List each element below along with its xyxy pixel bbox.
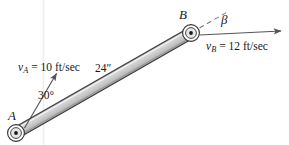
velocity-a-label: vA = 10 ft/sec [18, 62, 80, 76]
velocity-a-equals: = [28, 61, 40, 73]
angle-beta-label: β [221, 13, 227, 26]
velocity-b-equals: = [216, 40, 228, 52]
point-label-b: B [179, 8, 187, 21]
bar-length-label: 24″ [95, 63, 111, 75]
pin-joint-a [8, 125, 25, 142]
velocity-a-value: 10 ft/sec [41, 61, 80, 73]
pin-joint-b [183, 25, 200, 42]
point-label-a: A [8, 109, 16, 122]
kinematics-figure: A B vA = 10 ft/sec vB = 12 ft/sec 24″ 30… [0, 0, 289, 145]
angle-30-degrees-label: 30° [38, 90, 54, 102]
velocity-vector-b-arrow [200, 31, 282, 35]
rigid-bar-ab [13, 28, 193, 138]
velocity-b-value: 12 ft/sec [229, 40, 268, 52]
velocity-b-label: vB = 12 ft/sec [206, 41, 268, 55]
